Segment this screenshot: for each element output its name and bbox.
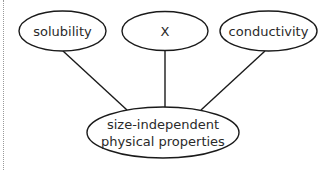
node-conductivity-label: conductivity [229, 24, 309, 39]
node-solubility: solubility [19, 11, 106, 51]
node-solubility-label: solubility [33, 24, 92, 39]
node-x: X [122, 12, 208, 51]
node-size-independent-ellipse [87, 107, 239, 158]
edges [63, 51, 265, 111]
node-x-label: X [161, 24, 170, 39]
concept-diagram: solubility X conductivity size-independe… [0, 0, 328, 170]
node-size-independent-label-line1: size-independent [107, 117, 219, 132]
node-size-independent-properties: size-independent physical properties [87, 107, 239, 158]
node-size-independent-label-line2: physical properties [101, 134, 225, 149]
node-conductivity: conductivity [220, 11, 317, 51]
edge-conductivity-to-properties [201, 51, 265, 110]
edge-solubility-to-properties [63, 51, 127, 110]
